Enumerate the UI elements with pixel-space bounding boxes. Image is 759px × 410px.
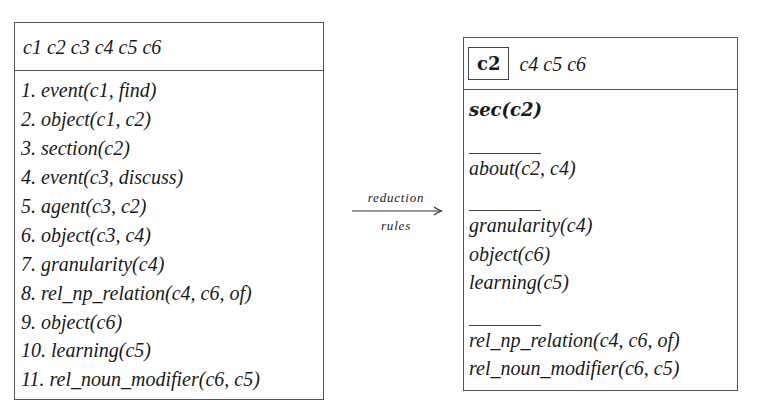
condition-item: learning(c5) (469, 268, 737, 297)
condition-item: rel_noun_modifier(c6, c5) (469, 354, 737, 383)
condition-item: 10. learning(c5) (21, 336, 323, 365)
condition-item: about(c2, c4) (469, 154, 737, 183)
group-separator (469, 182, 737, 211)
condition-item: 3. section(c2) (21, 134, 323, 163)
referents-header: c2 c4 c5 c6 (464, 38, 737, 90)
arrow-top-label: reduction (350, 190, 442, 206)
arrow-bottom-label: rules (350, 218, 442, 234)
reduced-drs-box: c2 c4 c5 c6 sec(c2) about(c2, c4) granul… (463, 37, 738, 391)
conditions-list: sec(c2) about(c2, c4) granularity(c4) ob… (464, 90, 737, 383)
input-drs-box: c1 c2 c3 c4 c5 c6 1. event(c1, find) 2. … (14, 22, 324, 400)
condition-item: 6. object(c3, c4) (21, 220, 323, 249)
condition-item: 5. agent(c3, c2) (21, 192, 323, 221)
condition-item: rel_np_relation(c4, c6, of) (469, 326, 737, 355)
conditions-list: 1. event(c1, find) 2. object(c1, c2) 3. … (15, 71, 323, 394)
condition-item: 1. event(c1, find) (21, 76, 323, 105)
condition-item: 2. object(c1, c2) (21, 105, 323, 134)
condition-item: 9. object(c6) (21, 307, 323, 336)
condition-item: sec(c2) (469, 96, 737, 125)
condition-item: granularity(c4) (469, 211, 737, 240)
group-separator (469, 125, 737, 154)
condition-item: 8. rel_np_relation(c4, c6, of) (21, 278, 323, 307)
condition-item: 7. granularity(c4) (21, 249, 323, 278)
referents-header: c1 c2 c3 c4 c5 c6 (15, 23, 323, 71)
focus-referent-box: c2 (468, 47, 509, 80)
reduction-arrow: reduction rules (350, 190, 445, 240)
condition-item: 11. rel_noun_modifier(c6, c5) (21, 365, 323, 394)
referents-list: c4 c5 c6 (519, 54, 586, 74)
right-arrow-icon (350, 205, 445, 217)
group-separator (469, 297, 737, 326)
condition-item: object(c6) (469, 240, 737, 269)
referents-list: c1 c2 c3 c4 c5 c6 (23, 37, 161, 57)
condition-item: 4. event(c3, discuss) (21, 163, 323, 192)
